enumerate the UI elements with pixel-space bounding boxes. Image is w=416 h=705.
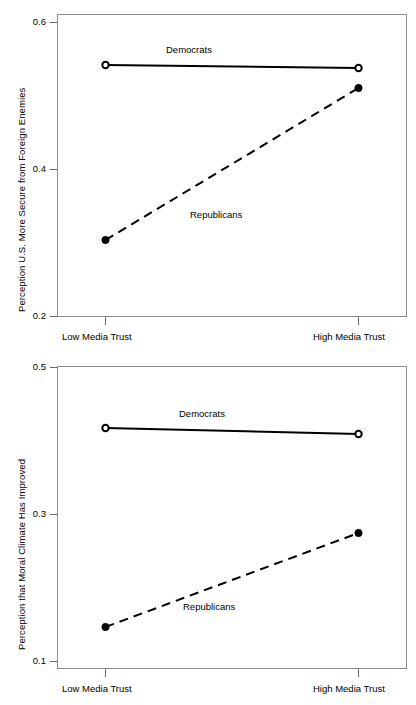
chart-panel-top: Perception U.S. More Secure from Foreign… <box>0 0 416 352</box>
data-point-democrats-low <box>102 425 108 431</box>
series-line-democrats <box>106 65 359 68</box>
data-point-democrats-high <box>355 65 361 71</box>
series-line-republicans <box>106 533 359 627</box>
y-axis-title: Perception U.S. More Secure from Foreign… <box>16 88 27 312</box>
ytick-label-0.6: 0.6 <box>8 16 46 27</box>
data-point-republicans-high <box>355 529 362 536</box>
ytick-label-0.5: 0.5 <box>8 361 46 372</box>
series-annotation-republicans: Republicans <box>190 209 242 220</box>
data-point-democrats-low <box>102 62 108 68</box>
data-point-republicans-high <box>355 84 362 91</box>
xtick-label-low-media-trust: Low Media Trust <box>62 331 132 342</box>
plot-frame <box>58 15 407 317</box>
data-point-republicans-low <box>102 623 109 630</box>
xtick-label-low-media-trust: Low Media Trust <box>62 683 132 694</box>
ytick-label-0.3: 0.3 <box>8 508 46 519</box>
two-panel-line-chart-figure: Perception U.S. More Secure from Foreign… <box>0 0 416 705</box>
ytick-label-0.4: 0.4 <box>8 163 46 174</box>
series-line-democrats <box>106 428 359 434</box>
ytick-label-0.2: 0.2 <box>8 310 46 321</box>
series-annotation-republicans: Republicans <box>183 601 235 612</box>
series-annotation-democrats: Democrats <box>179 408 225 419</box>
xtick-label-high-media-trust: High Media Trust <box>313 331 385 342</box>
data-point-democrats-high <box>355 431 361 437</box>
ytick-label-0.1: 0.1 <box>8 655 46 666</box>
plot-frame <box>58 367 407 669</box>
data-point-republicans-low <box>102 236 109 243</box>
bottom-panel-plot <box>0 352 416 705</box>
xtick-label-high-media-trust: High Media Trust <box>313 683 385 694</box>
y-axis-title: Perception that Moral Climate Has Improv… <box>16 459 27 650</box>
series-annotation-democrats: Democrats <box>166 44 212 55</box>
chart-panel-bottom: Perception that Moral Climate Has Improv… <box>0 352 416 704</box>
